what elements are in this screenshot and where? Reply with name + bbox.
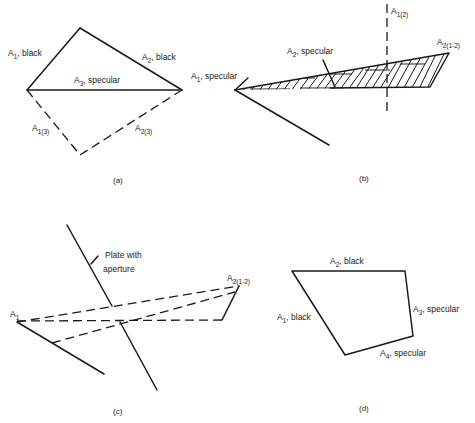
caption-c: (c) [113,407,123,416]
label-a3-specular: A3, specular [74,75,120,87]
label-c-a1: A1 [10,309,20,321]
label-plate-line2: aperture [103,264,135,274]
label-d-a4-specular: A4, specular [380,348,426,360]
label-d-a2-black: A2, black [330,256,365,268]
panel-d: A2, black A1, black A3, specular A4, spe… [277,256,459,413]
label-plate-line1: Plate with [105,250,142,260]
caption-b: (b) [359,174,369,183]
label-b-a2-1-2: A2(1-2) [437,37,460,50]
label-b-a1-2: A1(2) [391,6,408,19]
panel-c: Plate with aperture A1 A2(1-2) (c) [10,225,250,416]
label-d-a1-black: A1, black [277,312,312,324]
label-a1-3: A1(3) [32,123,49,136]
enclosure-diagrams: A1, black A2, black A3, specular A1(3) A… [0,0,475,423]
ray-lower [52,292,235,343]
ray-upper [17,286,239,322]
caption-d: (d) [359,404,369,413]
hatched-outline [235,53,449,90]
surface-a1-specular [235,90,329,145]
leader-plate [91,256,98,264]
caption-a: (a) [113,176,123,185]
ray-middle [17,320,222,321]
panel-a: A1, black A2, black A3, specular A1(3) A… [8,28,182,185]
label-a2-black: A2, black [142,52,177,64]
label-b-a2-specular: A2, specular [287,46,333,58]
plate-lower [120,322,157,390]
label-a2-3: A2(3) [135,123,152,136]
label-a1-black: A1, black [8,48,43,60]
label-b-a1-specular: A1, specular [191,71,237,83]
surface-a2-1-2 [222,286,239,320]
label-d-a3-specular: A3, specular [413,304,459,316]
label-c-a2-1-2: A2(1-2) [227,273,250,286]
surface-a1-black [27,28,80,90]
surface-a1 [17,322,104,374]
image-surface-a2-3 [80,90,182,155]
panel-b: A1, specular A2, specular A1(2) A2(1-2) … [191,4,460,183]
